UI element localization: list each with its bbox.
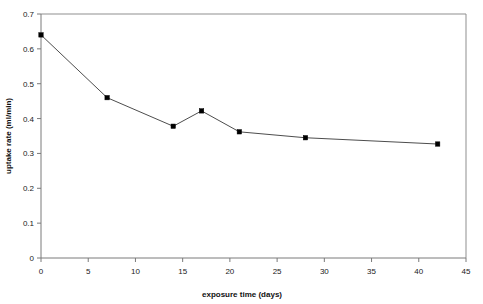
x-tick-label: 0 — [39, 267, 44, 276]
x-axis-title: exposure time (days) — [202, 290, 282, 299]
data-point-marker — [39, 33, 43, 37]
data-point-marker — [199, 109, 203, 113]
y-tick-label: 0.3 — [23, 149, 35, 158]
data-point-marker — [237, 130, 241, 134]
x-tick-label: 5 — [86, 267, 91, 276]
data-point-marker — [171, 124, 175, 128]
x-tick-label: 40 — [414, 267, 423, 276]
chart-container: 00.10.20.30.40.50.60.7 05101520253035404… — [0, 0, 483, 304]
x-tick-label: 25 — [273, 267, 282, 276]
y-tick-label: 0.1 — [23, 219, 35, 228]
data-point-marker — [435, 142, 439, 146]
x-tick-label: 20 — [225, 267, 234, 276]
y-tick-label: 0.5 — [23, 80, 35, 89]
y-tick-label: 0.7 — [23, 10, 35, 19]
x-tick-label: 10 — [131, 267, 140, 276]
y-axis-title: uptake rate (ml/min) — [4, 98, 13, 174]
y-tick-label: 0 — [30, 254, 35, 263]
y-tick-label: 0.6 — [23, 45, 35, 54]
line-chart: 00.10.20.30.40.50.60.7 05101520253035404… — [0, 0, 483, 304]
x-tick-label: 30 — [320, 267, 329, 276]
y-tick-label: 0.4 — [23, 115, 35, 124]
y-tick-label: 0.2 — [23, 184, 35, 193]
x-tick-label: 35 — [367, 267, 376, 276]
x-tick-label: 45 — [462, 267, 471, 276]
data-point-marker — [303, 136, 307, 140]
x-tick-label: 15 — [178, 267, 187, 276]
data-point-marker — [105, 95, 109, 99]
